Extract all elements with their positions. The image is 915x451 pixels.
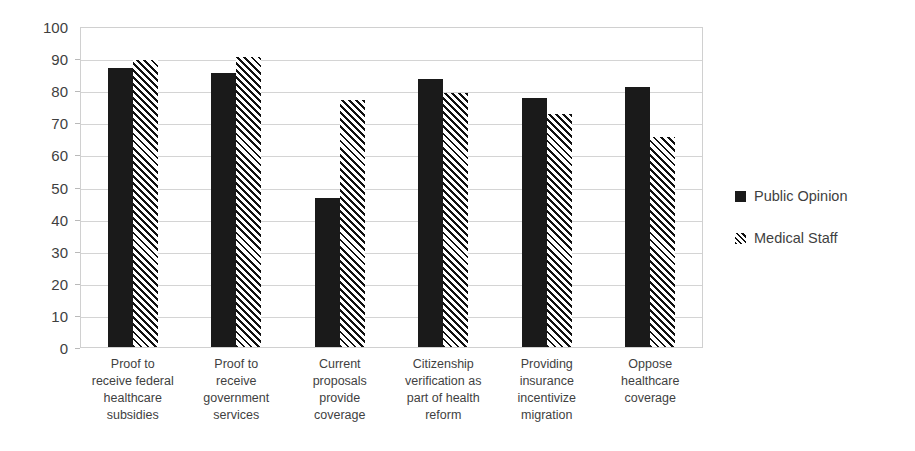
y-tick-label: 100	[43, 20, 68, 35]
bar-solid[interactable]	[522, 98, 547, 347]
bar-hatched[interactable]	[236, 57, 261, 348]
y-tick-mark	[75, 348, 80, 349]
bar-hatched[interactable]	[340, 100, 365, 347]
y-tick-label: 80	[51, 84, 68, 99]
bar-hatched[interactable]	[547, 114, 572, 347]
bar-hatched[interactable]	[650, 137, 675, 347]
y-axis: 1009080706050403020100	[0, 0, 80, 375]
x-axis-category-label: Providing insurance incentivize migratio…	[495, 356, 599, 424]
x-axis-category-label: Current proposals provide coverage	[288, 356, 392, 424]
x-axis-category-label: Citizenship verification as part of heal…	[392, 356, 496, 424]
bar-group	[495, 28, 599, 347]
x-axis-category-label: Oppose healthcare coverage	[599, 356, 703, 424]
bar-groups	[81, 28, 702, 347]
bar-solid[interactable]	[315, 198, 340, 347]
chart-legend: Public OpinionMedical Staff	[735, 188, 910, 272]
y-tick-label: 70	[51, 116, 68, 131]
bar-hatched[interactable]	[443, 93, 468, 347]
bar-solid[interactable]	[625, 87, 650, 347]
bar-solid[interactable]	[418, 79, 443, 347]
legend-swatch-solid-icon	[735, 191, 746, 202]
legend-item[interactable]: Medical Staff	[735, 230, 910, 246]
y-tick-label: 30	[51, 244, 68, 259]
grouped-bar-chart: 1009080706050403020100 Proof to receive …	[0, 0, 915, 451]
legend-item-label: Medical Staff	[754, 230, 838, 246]
x-axis-category-label: Proof to receive federal healthcare subs…	[81, 356, 185, 424]
bar-solid[interactable]	[211, 73, 236, 347]
y-tick-label: 60	[51, 148, 68, 163]
bar-hatched[interactable]	[133, 60, 158, 347]
y-tick-label: 40	[51, 212, 68, 227]
y-tick-label: 20	[51, 276, 68, 291]
y-tick-label: 90	[51, 52, 68, 67]
bar-group	[392, 28, 496, 347]
bar-group	[599, 28, 703, 347]
y-tick-label: 10	[51, 308, 68, 323]
bar-solid[interactable]	[108, 68, 133, 347]
legend-item-label: Public Opinion	[754, 188, 848, 204]
y-tick-label: 50	[51, 180, 68, 195]
y-tick-label: 0	[60, 341, 68, 356]
bar-group	[81, 28, 185, 347]
bar-group	[288, 28, 392, 347]
legend-swatch-hatched-icon	[735, 233, 746, 244]
legend-item[interactable]: Public Opinion	[735, 188, 910, 204]
bar-group	[185, 28, 289, 347]
x-axis-labels: Proof to receive federal healthcare subs…	[81, 356, 702, 424]
x-axis-category-label: Proof to receive government services	[185, 356, 289, 424]
